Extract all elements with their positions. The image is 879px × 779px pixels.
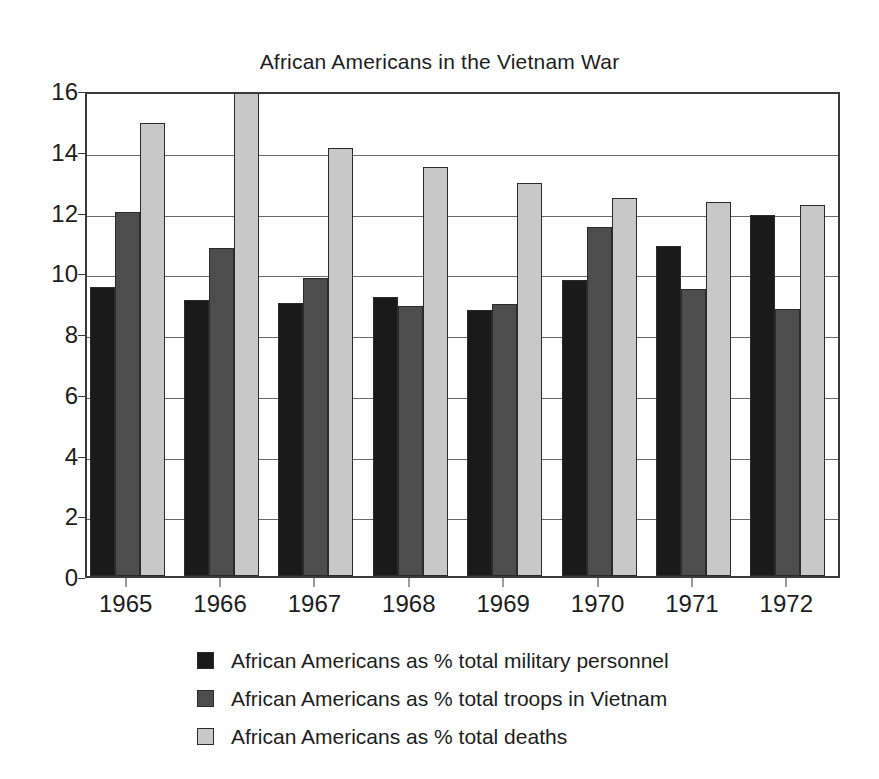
bar-group-1969	[467, 94, 542, 576]
x-axis-tick-label-1967: 1967	[264, 592, 364, 616]
bar	[90, 287, 115, 576]
chart-legend: African Americans as % total military pe…	[0, 641, 879, 755]
y-axis-tick-mark	[78, 457, 85, 458]
x-axis-tick-label-1971: 1971	[642, 592, 742, 616]
x-axis-tick-mark	[503, 578, 504, 587]
plot-area	[85, 92, 840, 578]
y-axis-tick-label: 0	[14, 566, 78, 590]
chart-figure: African Americans in the Vietnam War 024…	[0, 0, 879, 779]
bar	[587, 227, 612, 576]
y-axis-tick-mark	[78, 396, 85, 397]
y-axis-tick-mark	[78, 578, 85, 579]
y-axis-tick-label: 16	[14, 80, 78, 104]
bar-group-1968	[373, 94, 448, 576]
x-axis-tick-label-1966: 1966	[170, 592, 270, 616]
y-axis-tick-label: 2	[14, 505, 78, 529]
legend-item: African Americans as % total troops in V…	[0, 679, 879, 717]
x-axis-tick-label-1970: 1970	[548, 592, 648, 616]
x-axis-tick-mark	[597, 578, 598, 587]
y-axis-tick-label: 10	[14, 262, 78, 286]
x-axis-tick-label-1969: 1969	[453, 592, 553, 616]
x-axis-tick-label-1972: 1972	[736, 592, 836, 616]
legend-item-label: African Americans as % total troops in V…	[231, 688, 667, 709]
bar	[373, 297, 398, 576]
bar	[681, 289, 706, 576]
bar	[656, 246, 681, 576]
y-axis-tick-label: 8	[14, 323, 78, 347]
y-axis-tick-label: 4	[14, 445, 78, 469]
bar	[234, 94, 259, 576]
y-axis-tick-mark	[78, 274, 85, 275]
legend-swatch-troops-in-vietnam	[197, 690, 214, 707]
chart-title: African Americans in the Vietnam War	[0, 50, 879, 74]
bar-group-1965	[90, 94, 165, 576]
y-axis-tick-label: 14	[14, 141, 78, 165]
x-axis-tick-mark	[691, 578, 692, 587]
bar	[467, 310, 492, 576]
bar	[328, 148, 353, 576]
bar	[140, 123, 165, 576]
x-axis: 19651966196719681969197019711972	[85, 578, 840, 624]
bar	[209, 248, 234, 576]
bar-group-1967	[278, 94, 353, 576]
bar-group-1971	[656, 94, 731, 576]
bar	[612, 198, 637, 576]
legend-item: African Americans as % total military pe…	[0, 641, 879, 679]
legend-item-label: African Americans as % total deaths	[231, 726, 567, 747]
bar	[562, 280, 587, 576]
x-axis-tick-mark	[786, 578, 787, 587]
bar	[517, 183, 542, 576]
bar-group-1972	[750, 94, 825, 576]
bar	[706, 202, 731, 576]
x-axis-tick-label-1968: 1968	[359, 592, 459, 616]
bar	[278, 303, 303, 576]
bar	[423, 167, 448, 576]
bar	[115, 212, 140, 577]
bar-group-1970	[562, 94, 637, 576]
y-axis-tick-mark	[78, 92, 85, 93]
x-axis-tick-mark	[125, 578, 126, 587]
x-axis-tick-label-1965: 1965	[76, 592, 176, 616]
y-axis-tick-mark	[78, 517, 85, 518]
y-axis-tick-label: 12	[14, 202, 78, 226]
bar	[800, 205, 825, 576]
bar	[775, 309, 800, 576]
y-axis: 0246810121416	[0, 92, 78, 578]
bar	[398, 306, 423, 576]
x-axis-tick-mark	[314, 578, 315, 587]
bar	[303, 278, 328, 576]
y-axis-tick-label: 6	[14, 384, 78, 408]
y-axis-tick-mark	[78, 335, 85, 336]
legend-item: African Americans as % total deaths	[0, 717, 879, 755]
x-axis-tick-mark	[220, 578, 221, 587]
y-axis-tick-mark	[78, 214, 85, 215]
bar	[492, 304, 517, 576]
y-axis-tick-mark	[78, 153, 85, 154]
bar-group-1966	[184, 94, 259, 576]
plot-inner	[87, 94, 838, 576]
bar	[184, 300, 209, 576]
legend-swatch-military-personnel	[197, 652, 214, 669]
x-axis-tick-mark	[408, 578, 409, 587]
legend-item-label: African Americans as % total military pe…	[231, 650, 669, 671]
bar	[750, 215, 775, 576]
legend-swatch-total-deaths	[197, 728, 214, 745]
